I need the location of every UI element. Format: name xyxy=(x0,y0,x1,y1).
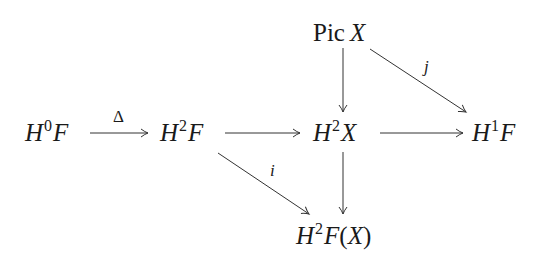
node-h2x-rest: X xyxy=(341,119,356,146)
node-h2x-base: H xyxy=(313,119,331,146)
node-h2fx-arg: X xyxy=(348,222,363,249)
arrows-layer xyxy=(0,0,553,273)
node-h0f-rest: F xyxy=(53,119,68,146)
label-j: j xyxy=(424,58,429,75)
node-h2f-sup: 2 xyxy=(179,117,187,134)
node-h0f-sup: 0 xyxy=(44,117,52,134)
arrow-j xyxy=(370,49,466,112)
node-h2f-base: H xyxy=(160,119,178,146)
node-h2x-sup: 2 xyxy=(332,117,340,134)
node-picx: Pic X xyxy=(313,20,365,45)
node-h2f-rest: F xyxy=(188,119,203,146)
node-h2fx-paren-close: ) xyxy=(363,222,371,249)
node-h0f: H0F xyxy=(25,120,68,145)
node-h2fx: H2F(X) xyxy=(296,223,371,248)
label-i: i xyxy=(270,162,275,179)
node-h2f: H2F xyxy=(160,120,203,145)
node-h0f-base: H xyxy=(25,119,43,146)
node-h1f-sup: 1 xyxy=(491,117,499,134)
arrow-i xyxy=(218,153,309,214)
label-delta: Δ xyxy=(113,108,124,125)
node-h2fx-paren-open: ( xyxy=(339,222,347,249)
node-picx-arg: X xyxy=(350,19,365,46)
node-h1f-rest: F xyxy=(500,119,515,146)
node-h2fx-sup: 2 xyxy=(315,220,323,237)
node-h1f-base: H xyxy=(472,119,490,146)
node-h2fx-rest: F xyxy=(324,222,339,249)
node-h2x: H2X xyxy=(313,120,356,145)
node-h1f: H1F xyxy=(472,120,515,145)
node-h2fx-base: H xyxy=(296,222,314,249)
node-picx-op: Pic xyxy=(313,19,345,46)
